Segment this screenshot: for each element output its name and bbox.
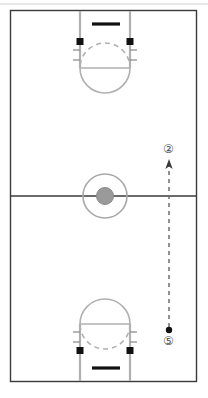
bottom-left-lane-block bbox=[77, 347, 84, 354]
player-marker-5[interactable]: ⑤ bbox=[163, 335, 174, 347]
court-svg bbox=[0, 0, 208, 398]
top-left-lane-block bbox=[77, 38, 84, 45]
top-right-lane-block bbox=[127, 38, 134, 45]
player-marker-2[interactable]: ② bbox=[163, 143, 174, 155]
bottom-right-lane-block bbox=[127, 347, 134, 354]
ball-marker-icon bbox=[166, 327, 172, 333]
court-diagram: ② ⑤ bbox=[0, 0, 208, 398]
center-circle-inner bbox=[97, 188, 114, 205]
